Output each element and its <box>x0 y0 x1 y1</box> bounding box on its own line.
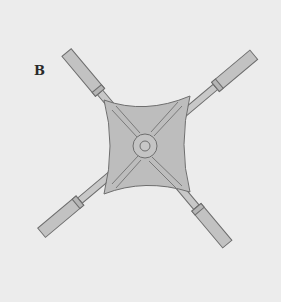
hub-inner <box>140 141 150 151</box>
figure-label: B <box>34 63 45 78</box>
diagram-canvas: B <box>0 0 281 302</box>
quadcopter-frame-illustration <box>0 0 281 302</box>
